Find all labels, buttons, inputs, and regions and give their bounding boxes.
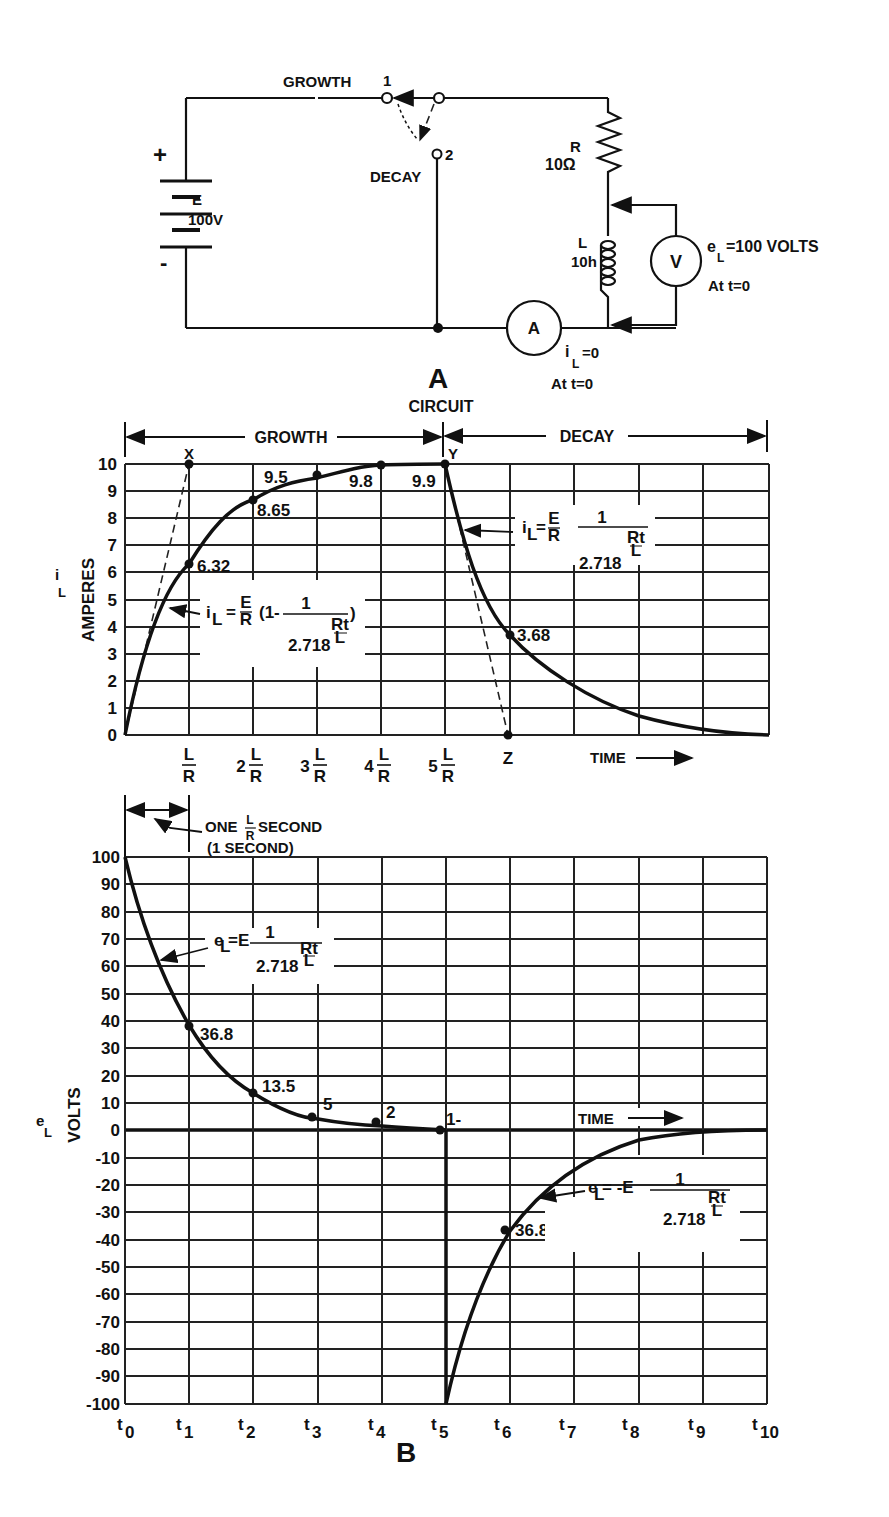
voltage-chart-label: B bbox=[396, 1437, 416, 1468]
label-98: 9.8 bbox=[349, 472, 373, 491]
ammeter-condition: At t=0 bbox=[551, 375, 593, 392]
svg-text:4: 4 bbox=[364, 757, 374, 776]
circuit-diagram: + - E 100V GROWTH 1 2 DECAY R 10Ω bbox=[153, 72, 819, 415]
svg-text:0: 0 bbox=[108, 726, 117, 745]
ammeter-reading-sub: L bbox=[572, 357, 579, 371]
point-x-label: X bbox=[184, 445, 194, 462]
battery-name: E bbox=[192, 191, 202, 208]
svg-text:1: 1 bbox=[597, 508, 606, 527]
svg-text:-80: -80 bbox=[95, 1340, 120, 1359]
circuit-label: A bbox=[428, 363, 448, 394]
svg-text:L: L bbox=[251, 745, 261, 764]
svg-text:-100: -100 bbox=[86, 1395, 120, 1414]
voltmeter-reading-sub: L bbox=[717, 251, 724, 265]
svg-text:-70: -70 bbox=[95, 1313, 120, 1332]
svg-text:t: t bbox=[559, 1415, 565, 1434]
battery-value: 100V bbox=[188, 211, 223, 228]
svg-text:-40: -40 bbox=[95, 1231, 120, 1250]
svg-text:L: L bbox=[379, 745, 389, 764]
svg-text:=: = bbox=[226, 603, 236, 622]
label-5: 5 bbox=[323, 1095, 332, 1114]
svg-text:-90: -90 bbox=[95, 1367, 120, 1386]
svg-text:L: L bbox=[631, 541, 641, 560]
label-99: 9.9 bbox=[412, 472, 436, 491]
voltage-time-label: TIME bbox=[578, 1110, 614, 1127]
svg-text:t: t bbox=[494, 1415, 500, 1434]
svg-text:t: t bbox=[238, 1415, 244, 1434]
circuit-caption: CIRCUIT bbox=[409, 398, 474, 415]
decay-span-label: DECAY bbox=[560, 428, 615, 445]
svg-text:1: 1 bbox=[184, 1423, 193, 1442]
voltage-y-ticks: 100 90 80 70 60 50 40 30 20 10 0 -10 -20… bbox=[86, 848, 120, 1414]
svg-text:t: t bbox=[431, 1415, 437, 1434]
svg-text:VOLTS: VOLTS bbox=[65, 1087, 84, 1142]
svg-text:2: 2 bbox=[108, 672, 117, 691]
voltmeter-symbol: V bbox=[670, 252, 682, 272]
svg-text:1: 1 bbox=[301, 594, 310, 613]
svg-text:-30: -30 bbox=[95, 1203, 120, 1222]
svg-text:L: L bbox=[443, 745, 453, 764]
svg-text:10: 10 bbox=[101, 1094, 120, 1113]
inductor-name: L bbox=[578, 234, 587, 251]
label-95: 9.5 bbox=[264, 468, 288, 487]
svg-text:-20: -20 bbox=[95, 1176, 120, 1195]
svg-text:4: 4 bbox=[376, 1423, 386, 1442]
svg-text:R: R bbox=[442, 767, 454, 786]
svg-text:t: t bbox=[117, 1415, 123, 1434]
current-y-axis-label: AMPERES bbox=[79, 558, 98, 642]
label-1-minus: 1- bbox=[446, 1110, 461, 1129]
switch-growth-label: GROWTH bbox=[283, 73, 351, 90]
resistor-value: 10Ω bbox=[545, 156, 576, 173]
voltage-x-ticks: t0 t1 t2 t3 t4 t5 t6 t7 t8 t9 t10 bbox=[117, 1415, 779, 1442]
label-135: 13.5 bbox=[262, 1077, 295, 1096]
one-second-label: (1 SECOND) bbox=[207, 839, 294, 856]
current-growth-formula: i L = E R (1- 1 ) 2.718 Rt L bbox=[170, 593, 365, 667]
inductor-value: 10h bbox=[571, 253, 597, 270]
ammeter-reading: =0 bbox=[582, 344, 599, 361]
svg-text:90: 90 bbox=[101, 875, 120, 894]
current-y-ticks: 0 1 2 3 4 5 6 7 8 9 10 bbox=[98, 455, 117, 745]
voltage-decay-formula: e L = -E 1 2.718 Rt L bbox=[540, 1170, 740, 1252]
svg-text:Z: Z bbox=[503, 749, 513, 768]
label-865: 8.65 bbox=[257, 501, 290, 520]
svg-text:80: 80 bbox=[101, 903, 120, 922]
svg-text:2.718: 2.718 bbox=[663, 1210, 706, 1229]
svg-text:2.718: 2.718 bbox=[256, 957, 299, 976]
svg-text:t: t bbox=[368, 1415, 374, 1434]
voltmeter-reading: =100 VOLTS bbox=[726, 238, 819, 255]
svg-text:L: L bbox=[315, 745, 325, 764]
current-x-ticks: L R 2 L R 3 L R 4 L R bbox=[182, 745, 513, 786]
label-368: 3.68 bbox=[517, 626, 550, 645]
svg-text:t: t bbox=[176, 1415, 182, 1434]
svg-text:6: 6 bbox=[502, 1423, 511, 1442]
svg-text:8: 8 bbox=[630, 1423, 639, 1442]
current-y-sym: i bbox=[55, 566, 59, 583]
svg-text:t: t bbox=[622, 1415, 628, 1434]
svg-text:(1-: (1- bbox=[259, 603, 280, 622]
ammeter-reading-sym: i bbox=[565, 343, 569, 360]
svg-text:R: R bbox=[314, 767, 326, 786]
resistor-name: R bbox=[570, 138, 581, 155]
svg-text:60: 60 bbox=[101, 957, 120, 976]
inductor-icon bbox=[601, 241, 615, 328]
svg-text:100: 100 bbox=[92, 848, 120, 867]
svg-text:3: 3 bbox=[312, 1423, 321, 1442]
svg-text:3: 3 bbox=[300, 757, 309, 776]
current-decay-formula: i L = E R 1 2.718 Rt L bbox=[465, 505, 655, 573]
figure: + - E 100V GROWTH 1 2 DECAY R 10Ω bbox=[0, 0, 889, 1517]
switch-position-2: 2 bbox=[445, 146, 453, 163]
svg-text:1: 1 bbox=[265, 923, 274, 942]
switch-position-1: 1 bbox=[383, 72, 391, 89]
voltmeter-lead-bottom bbox=[612, 287, 676, 325]
voltmeter-lead-top bbox=[612, 205, 676, 236]
svg-text:L: L bbox=[212, 610, 222, 629]
one-lr-pre: ONE bbox=[205, 818, 238, 835]
battery-plus: + bbox=[153, 141, 167, 168]
label-632: 6.32 bbox=[197, 557, 230, 576]
svg-text:R: R bbox=[250, 767, 262, 786]
label-368-v: 36.8 bbox=[200, 1025, 233, 1044]
svg-text:t: t bbox=[752, 1415, 758, 1434]
svg-text:3: 3 bbox=[108, 645, 117, 664]
svg-text:i: i bbox=[206, 603, 211, 622]
svg-text:1: 1 bbox=[675, 1170, 684, 1189]
